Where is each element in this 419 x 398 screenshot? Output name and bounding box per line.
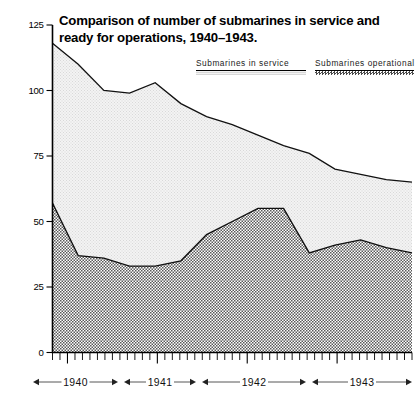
y-axis-tick-label: 0: [38, 347, 43, 358]
y-axis-tick-label: 50: [33, 216, 43, 227]
x-axis-ticks: [53, 353, 413, 364]
chart-root: Comparison of number of submarines in se…: [0, 0, 419, 398]
y-axis-tick-label: 125: [28, 19, 43, 30]
x-axis-year-label: 1940: [63, 377, 88, 388]
x-axis-year-markers: 1940194119421943: [33, 377, 412, 388]
x-axis-year-label: 1943: [350, 377, 375, 388]
chart-plot: 0255075100125 1940194119421943: [0, 0, 419, 398]
y-axis-tick-label: 75: [33, 150, 43, 161]
chart-svg: 0255075100125 1940194119421943: [0, 0, 419, 398]
x-axis-year-label: 1942: [242, 377, 267, 388]
y-axis-tick-label: 100: [28, 85, 43, 96]
x-axis-year-label: 1941: [148, 377, 173, 388]
y-axis-tick-label: 25: [33, 281, 43, 292]
y-axis-ticks: 0255075100125: [28, 19, 52, 358]
